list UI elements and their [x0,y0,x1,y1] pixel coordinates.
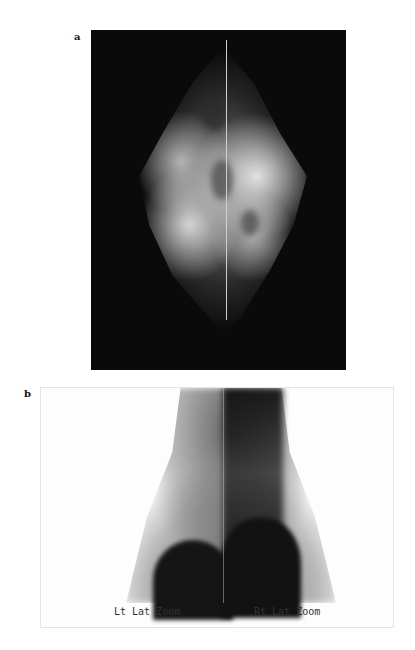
mammogram-image [91,30,346,370]
scintigraphy-image: Lt Lat Zoom Rt Lat Zoom [40,387,394,628]
panel-a-label: a [74,31,80,42]
tissue-dark-patch [201,100,227,130]
midline-divider [223,388,224,603]
uptake-blob-right [221,518,301,618]
tissue-dark-patch [211,160,233,200]
panel-b-label: b [24,388,31,399]
lt-lat-zoom-label: Lt Lat Zoom [114,606,180,617]
rt-lat-zoom-label: Rt Lat Zoom [254,606,320,617]
midline-divider [226,40,227,320]
tissue-dark-patch [241,210,259,236]
